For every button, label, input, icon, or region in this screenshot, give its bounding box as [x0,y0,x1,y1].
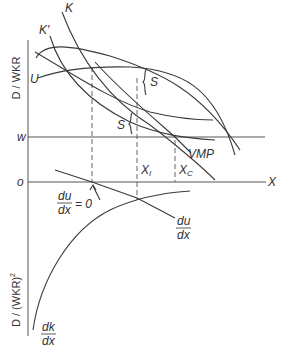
curve-upper-hump [36,47,240,150]
label-top-axis: D / WKR [10,57,22,100]
label-dk-den: dx [42,334,56,348]
label-w: w [17,130,27,144]
annotation-den: dx [58,203,72,217]
brace-lower [129,113,132,134]
label-dk-num: dk [42,320,56,334]
arrowhead-icon [90,185,96,190]
label-k-prime: K′ [39,23,50,37]
label-du-den: dx [177,228,191,242]
label-u: U [30,72,39,86]
curve-du-dx [55,170,175,218]
curve-k-prime [50,36,215,140]
label-du-num: du [177,214,191,228]
label-bottom-axis: D / (WKR)2 [9,273,22,327]
annotation-arrow [93,186,100,200]
label-s-lower: S [117,118,125,132]
label-k: K [65,1,74,15]
label-s-upper: S [150,75,158,89]
label-o: o [17,175,24,189]
label-xc: XC [178,163,193,178]
annotation-num: du [58,189,72,203]
curve-dk-dx [33,191,190,330]
curve-u [38,67,235,155]
economics-diagram: K K′ U S S VMP w o X XI XC du dx = 0 du … [0,0,281,353]
annotation-rhs: = 0 [75,197,92,211]
label-x: X [267,175,277,189]
label-xi: XI [140,163,152,178]
brace-upper [143,70,146,95]
label-vmp: VMP [188,147,214,161]
curve-vmp [95,62,191,153]
